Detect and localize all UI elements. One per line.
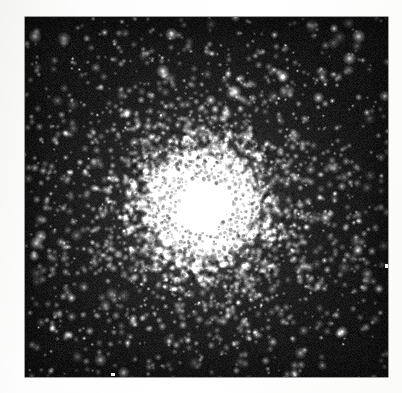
globular-cluster-starfield xyxy=(25,17,388,377)
photo-caption xyxy=(25,379,388,391)
scanned-page xyxy=(0,0,402,393)
astronomical-photograph-plate xyxy=(25,17,388,377)
